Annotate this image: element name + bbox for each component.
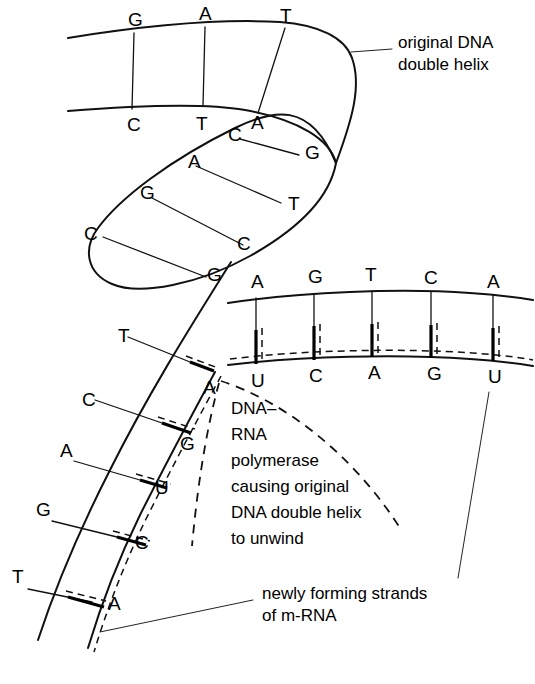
helix-loop-rung-2 [196, 166, 281, 203]
base-letter-top-upper-2: A [199, 3, 212, 24]
base-letter-loop-outer-3: G [140, 182, 155, 203]
base-letter-left-dna-5: T [12, 566, 24, 587]
caption-polymerase-line6: to unwind [231, 529, 304, 548]
base-letter-top-lower-3: A [251, 112, 264, 133]
helix-loop-rung-3 [152, 198, 243, 245]
base-letter-top-lower-2: T [196, 113, 208, 134]
top-helix-rung-2 [203, 27, 205, 106]
leader-line-original-helix [351, 49, 392, 52]
caption-polymerase-line2: RNA [231, 425, 268, 444]
base-letter-left-dna-3: A [60, 440, 73, 461]
base-letter-loop-outer-4: C [84, 223, 98, 244]
base-letter-left-dna-1: T [118, 325, 130, 346]
base-letter-left-mrna-4: C [135, 532, 149, 553]
right-dna-strand-group [228, 291, 533, 366]
base-letter-loop-inner-1: G [305, 142, 320, 163]
base-letter-left-dna-4: G [36, 499, 51, 520]
caption-polymerase-line1: DNA– [231, 399, 277, 418]
right-dna-backbone [228, 291, 533, 303]
base-letter-loop-inner-3: C [237, 233, 251, 254]
left-dna-strand-group [28, 262, 231, 652]
left-pair-rung-2 [95, 400, 162, 423]
top-helix-right-fold [336, 58, 356, 163]
base-letter-loop-outer-1: C [228, 124, 242, 145]
base-letter-top-lower-1: C [127, 114, 141, 135]
base-letter-right-mrna-5: U [488, 366, 502, 387]
base-letter-right-mrna-1: U [251, 370, 265, 391]
caption-mrna-line1: newly forming strands [262, 584, 427, 603]
top-helix-upper-backbone [68, 21, 352, 58]
leader-line-mrna-right [458, 392, 489, 578]
right-mrna-dashed-edge [230, 350, 533, 360]
base-letter-right-mrna-2: C [309, 365, 323, 386]
base-letter-right-dna-3: T [365, 264, 377, 285]
caption-original-helix: original DNA double helix [398, 33, 494, 74]
caption-original-helix-line1: original DNA [398, 33, 494, 52]
caption-polymerase-line4: causing original [231, 477, 349, 496]
left-pair-rung-1 [128, 337, 190, 362]
base-letter-left-mrna-2: G [180, 433, 195, 454]
caption-original-helix-line2: double helix [398, 55, 489, 74]
caption-mrna-line2: of m-RNA [262, 606, 337, 625]
left-pair-bond-1 [190, 362, 214, 371]
base-letter-loop-inner-2: T [288, 193, 300, 214]
helix-loop-rung-1 [240, 139, 299, 155]
base-letter-right-mrna-3: A [368, 362, 381, 383]
caption-polymerase: DNA– RNA polymerase causing original DNA… [231, 399, 362, 548]
helix-loop-rung-4 [103, 237, 206, 277]
caption-polymerase-line3: polymerase [231, 451, 319, 470]
base-letter-left-dna-2: C [82, 389, 96, 410]
top-helix-rung-3 [258, 28, 285, 113]
base-letter-right-dna-2: G [308, 266, 323, 287]
base-letter-right-dna-1: A [251, 271, 264, 292]
base-letter-right-dna-5: A [487, 271, 500, 292]
base-letter-loop-inner-4: G [207, 264, 222, 285]
base-letter-loop-outer-2: A [188, 151, 201, 172]
base-letter-left-mrna-1: A [203, 377, 216, 398]
left-pair-bond-5 [68, 597, 104, 607]
base-letter-right-mrna-4: G [427, 363, 442, 384]
base-letter-left-mrna-3: U [155, 477, 169, 498]
base-letter-right-dna-4: C [424, 267, 438, 288]
base-letter-top-upper-3: T [280, 5, 292, 26]
base-letter-top-upper-1: G [128, 9, 143, 30]
base-letter-left-mrna-5: A [108, 593, 121, 614]
caption-mrna: newly forming strands of m-RNA [262, 584, 427, 625]
diagram-canvas: G A T C T A C A G C G T C G T C A G T A … [0, 0, 535, 684]
caption-polymerase-line5: DNA double helix [231, 503, 362, 522]
dna-transcription-diagram: G A T C T A C A G C G T C G T C A G T A … [0, 0, 535, 684]
leader-line-mrna-left [100, 600, 253, 632]
top-helix-rung-1 [132, 33, 134, 109]
